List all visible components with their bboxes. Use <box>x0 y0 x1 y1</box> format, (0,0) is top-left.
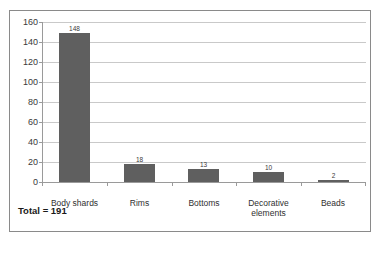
gridline-100 <box>42 82 366 83</box>
y-tick-label-120: 120 <box>23 58 38 67</box>
y-tick-label-160: 160 <box>23 18 38 27</box>
y-tick-mark-100 <box>39 82 42 83</box>
y-tick-mark-20 <box>39 162 42 163</box>
bar-rims[interactable] <box>124 164 155 182</box>
bar-value-beads: 2 <box>318 172 349 179</box>
x-tick-mark-3 <box>236 183 237 186</box>
figure-caption-cropped <box>9 244 249 253</box>
chart-frame: 160 140 120 100 80 60 40 20 0 <box>9 10 371 232</box>
x-tick-mark-1 <box>107 183 108 186</box>
y-axis-tick-labels: 160 140 120 100 80 60 40 20 0 <box>10 22 38 183</box>
y-tick-mark-160 <box>39 22 42 23</box>
y-tick-label-60: 60 <box>28 118 38 127</box>
x-tick-mark-2 <box>172 183 173 186</box>
gridline-60 <box>42 122 366 123</box>
gridline-40 <box>42 142 366 143</box>
y-tick-label-40: 40 <box>28 138 38 147</box>
x-axis-baseline <box>42 182 366 183</box>
bar-value-bottoms: 13 <box>188 161 219 168</box>
y-tick-label-0: 0 <box>33 178 38 187</box>
y-tick-label-80: 80 <box>28 98 38 107</box>
bar-body-shards[interactable] <box>59 33 90 182</box>
x-category-label-rims: Rims <box>107 198 172 208</box>
chart-figure: 160 140 120 100 80 60 40 20 0 <box>0 0 381 253</box>
x-category-label-bottoms: Bottoms <box>172 198 236 208</box>
bar-value-decorative-elements: 10 <box>253 164 284 171</box>
bar-bottoms[interactable] <box>188 169 219 182</box>
gridline-120 <box>42 62 366 63</box>
y-tick-mark-60 <box>39 122 42 123</box>
y-tick-label-20: 20 <box>28 158 38 167</box>
x-tick-mark-4 <box>301 183 302 186</box>
x-tick-mark-5 <box>365 183 366 186</box>
total-annotation: Total = 191 <box>18 205 67 216</box>
y-tick-mark-140 <box>39 42 42 43</box>
y-tick-label-100: 100 <box>23 78 38 87</box>
x-category-label-decorative-elements: Decorative elements <box>236 198 301 218</box>
plot-area: 148 18 13 10 2 Body shards Rims Bottoms … <box>42 22 366 183</box>
x-category-label-beads: Beads <box>301 198 365 208</box>
gridline-160 <box>42 22 366 23</box>
bar-decorative-elements[interactable] <box>253 172 284 182</box>
gridline-80 <box>42 102 366 103</box>
y-tick-mark-40 <box>39 142 42 143</box>
gridline-140 <box>42 42 366 43</box>
bar-beads[interactable] <box>318 180 349 182</box>
y-axis-line <box>42 22 43 183</box>
y-tick-mark-120 <box>39 62 42 63</box>
x-tick-mark-0 <box>42 183 43 186</box>
y-tick-mark-80 <box>39 102 42 103</box>
bar-value-body-shards: 148 <box>59 25 90 32</box>
y-tick-label-140: 140 <box>23 38 38 47</box>
bar-value-rims: 18 <box>124 156 155 163</box>
